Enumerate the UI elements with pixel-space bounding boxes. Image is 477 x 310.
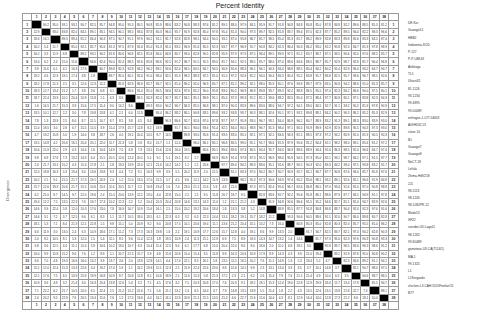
identity-cell: 91.9 [267, 198, 276, 205]
divergence-cell: 7.5 [51, 272, 60, 279]
identity-cell: 89.3 [60, 36, 69, 43]
identity-cell: 87.3 [248, 183, 257, 190]
identity-cell: 96.9 [238, 87, 247, 94]
identity-cell: 85.1 [192, 95, 201, 102]
identity-cell: 83.0 [154, 102, 163, 109]
divergence-cell: 10.9 [88, 228, 97, 235]
divergence-cell: 1.6 [163, 228, 172, 235]
column-number: 21 [220, 302, 229, 309]
identity-cell: 80.4 [285, 73, 294, 80]
identity-cell: 84.2 [314, 65, 323, 72]
identity-cell: 89.2 [79, 50, 88, 57]
sequence-label: 99-4895 [408, 100, 453, 107]
column-number: 6 [79, 14, 88, 21]
divergence-cell: 10.9 [248, 250, 257, 257]
divergence-cell: 9.8 [220, 265, 229, 272]
divergence-cell: 20.4 [135, 132, 144, 139]
identity-cell: 85.5 [285, 206, 294, 213]
divergence-cell: 18.7 [32, 95, 41, 102]
identity-cell: 91.4 [210, 132, 219, 139]
divergence-cell: 1.2 [116, 294, 125, 301]
divergence-cell: 19.2 [98, 265, 107, 272]
sequence-label: Guangxi8 [408, 151, 453, 158]
identity-cell: 83.5 [285, 95, 294, 102]
identity-cell: 92.6 [379, 73, 388, 80]
identity-cell: 89.4 [295, 28, 304, 35]
divergence-cell: 21.3 [69, 220, 78, 227]
identity-cell: 85.7 [379, 50, 388, 57]
identity-cell: 90.3 [304, 161, 313, 168]
divergence-cell: 12.6 [41, 183, 50, 190]
identity-cell: 94.3 [361, 124, 370, 131]
divergence-cell: 6.8 [32, 243, 41, 250]
identity-cell: 87.0 [229, 36, 238, 43]
row-number-right: 17 [389, 139, 398, 146]
divergence-cell: 1.6 [163, 183, 172, 190]
divergence-cell: 3.2 [135, 280, 144, 287]
divergence-cell: 4.6 [41, 73, 50, 80]
divergence-cell: 13.3 [229, 206, 238, 213]
identity-cell: 91.3 [332, 117, 341, 124]
identity-cell: 88.6 [351, 80, 360, 87]
divergence-cell: 2.5 [107, 287, 116, 294]
identity-cell: 91.1 [210, 95, 219, 102]
identity-cell: 86.4 [154, 110, 163, 117]
divergence-cell: 14.8 [229, 287, 238, 294]
identity-cell: 96.9 [238, 43, 247, 50]
divergence-cell: 21.7 [60, 287, 69, 294]
identity-cell: 91.7 [257, 139, 266, 146]
divergence-cell: 6.6 [32, 228, 41, 235]
identity-cell: 96.9 [248, 87, 257, 94]
identity-cell: 82.6 [173, 87, 182, 94]
divergence-cell: 17.6 [41, 272, 50, 279]
identity-cell: 98.7 [370, 272, 379, 279]
identity-cell: 87.7 [323, 169, 332, 176]
divergence-cell: 13.6 [220, 220, 229, 227]
divergence-cell: 2.8 [60, 124, 69, 131]
divergence-cell: 1.5 [98, 220, 107, 227]
identity-cell: 81.2 [379, 21, 388, 28]
divergence-cell: 2.4 [98, 191, 107, 198]
divergence-cell: 21.3 [51, 80, 60, 87]
matrix-row: 613.46.22.415.011.694.682.490.082.488.59… [23, 58, 399, 65]
identity-cell: 91.5 [370, 154, 379, 161]
matrix-row: 918.217.821.32.53.112.612.312.281.882.88… [23, 80, 399, 87]
identity-cell: 98.7 [342, 58, 351, 65]
identity-cell: 87.6 [342, 169, 351, 176]
column-number: 35 [351, 302, 360, 309]
identity-cell: 92.9 [323, 124, 332, 131]
sequence-label: Zhima-HdV218 [408, 173, 453, 180]
divergence-cell: 12.0 [69, 206, 78, 213]
identity-cell: 82.4 [98, 58, 107, 65]
identity-cell: 92.2 [323, 43, 332, 50]
divergence-cell: 10.9 [107, 272, 116, 279]
row-number-right: 6 [389, 58, 398, 65]
divergence-cell: 8.9 [267, 250, 276, 257]
column-number: 27 [276, 14, 285, 21]
sequence-label: B77 [408, 290, 453, 297]
sequence-label-list: DE-KorGuangxi11HBB2Indonesia-KODP-127P-P… [408, 20, 453, 297]
identity-cell: 83.0 [314, 43, 323, 50]
divergence-cell: 14.5 [163, 132, 172, 139]
divergence-cell: 19.1 [60, 73, 69, 80]
identity-cell: 83.0 [220, 87, 229, 94]
identity-cell: 81.3 [370, 80, 379, 87]
diagonal-cell [32, 21, 41, 28]
identity-cell: 80.1 [276, 80, 285, 87]
identity-cell: 93.0 [379, 124, 388, 131]
divergence-cell: 8.1 [145, 272, 154, 279]
divergence-cell: 2.5 [163, 206, 172, 213]
divergence-cell: 19.4 [69, 169, 78, 176]
divergence-cell: 5.1 [145, 154, 154, 161]
identity-cell: 82.9 [332, 124, 341, 131]
identity-cell: 96.7 [361, 73, 370, 80]
diagonal-cell [88, 65, 97, 72]
identity-cell: 84.8 [295, 21, 304, 28]
divergence-cell: 16.1 [163, 294, 172, 301]
divergence-cell: 5.3 [60, 169, 69, 176]
divergence-cell: 22.6 [314, 287, 323, 294]
divergence-cell: 19.9 [88, 272, 97, 279]
divergence-cell: 1.8 [220, 206, 229, 213]
identity-cell: 85.0 [314, 154, 323, 161]
divergence-cell: 19.5 [182, 147, 191, 154]
